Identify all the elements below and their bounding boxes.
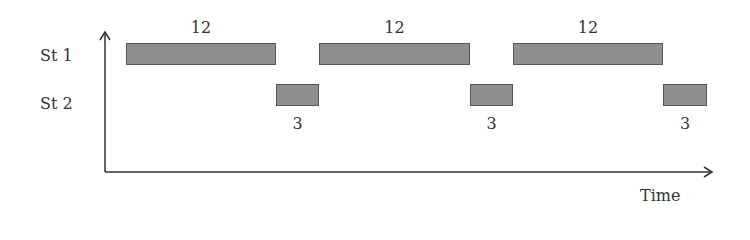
st1-duration-label: 12	[181, 20, 221, 36]
st2-duration-label: 3	[665, 116, 705, 132]
st2-bar	[663, 84, 707, 106]
st2-bar	[470, 84, 513, 106]
st1-bar	[513, 43, 663, 65]
row-label-st1: St 1	[40, 48, 73, 64]
st2-duration-label: 3	[278, 116, 318, 132]
st2-duration-label: 3	[472, 116, 512, 132]
st1-bar	[126, 43, 276, 65]
st1-duration-label: 12	[375, 20, 415, 36]
row-label-st2: St 2	[40, 96, 73, 112]
st1-duration-label: 12	[568, 20, 608, 36]
x-axis-label: Time	[640, 188, 680, 204]
st1-bar	[319, 43, 470, 65]
st2-bar	[276, 84, 319, 106]
